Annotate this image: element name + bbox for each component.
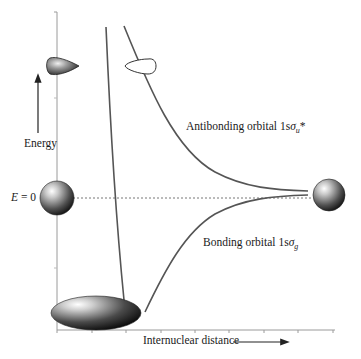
antibonding-curve: [124, 26, 308, 191]
antibonding-lobe-outline: [125, 59, 156, 74]
mo-energy-diagram: [0, 0, 361, 359]
bonding-inner-wall-curve: [106, 27, 124, 300]
zero-energy-label: E = 0: [11, 191, 36, 203]
bonding-curve: [145, 195, 308, 312]
antibonding-lobe-shaded: [47, 57, 79, 74]
bonding-label: Bonding orbital 1sσg: [203, 236, 298, 251]
separated-atom-left: [40, 181, 74, 215]
y-axis-label: Energy: [24, 137, 57, 149]
bonding-ellipsoid: [51, 296, 141, 330]
separated-atom-right: [313, 179, 345, 211]
antibonding-label: Antibonding orbital 1sσu*: [186, 120, 306, 135]
x-axis-label: Internuclear distance: [143, 334, 239, 346]
x-axis: [57, 330, 335, 333]
